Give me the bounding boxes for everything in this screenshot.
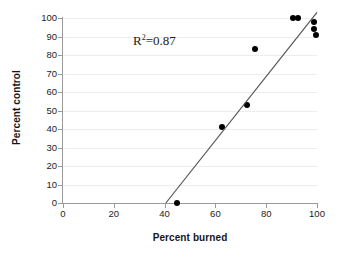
data-point [252, 46, 258, 52]
y-tick-label: 20 [13, 161, 57, 171]
gridline [63, 111, 317, 112]
x-tick-label: 40 [145, 209, 185, 219]
x-tick-mark [266, 203, 267, 208]
data-point [174, 200, 180, 206]
x-tick-mark [63, 203, 64, 208]
r-squared-value: =0.87 [146, 33, 176, 48]
x-tick-label: 80 [246, 209, 286, 219]
y-tick-label: 60 [13, 87, 57, 97]
x-tick-label: 20 [94, 209, 134, 219]
y-tick-label: 80 [13, 50, 57, 60]
scatter-chart: Percent control Percent burned R2=0.87 0… [0, 0, 342, 258]
x-axis-title: Percent burned [63, 232, 317, 243]
y-tick-mark [58, 111, 63, 112]
y-tick-label: 100 [13, 13, 57, 23]
gridline [63, 148, 317, 149]
y-tick-mark [58, 18, 63, 19]
gridline [63, 55, 317, 56]
y-tick-label: 70 [13, 69, 57, 79]
x-tick-label: 100 [297, 209, 337, 219]
y-tick-mark [58, 129, 63, 130]
x-axis-line [62, 203, 318, 204]
data-point [219, 124, 225, 130]
y-tick-mark [58, 55, 63, 56]
data-point [311, 19, 317, 25]
y-tick-mark [58, 74, 63, 75]
gridline [63, 18, 317, 19]
gridline [63, 166, 317, 167]
y-tick-label: 0 [13, 198, 57, 208]
y-tick-mark [58, 185, 63, 186]
data-point [244, 102, 250, 108]
y-tick-mark [58, 148, 63, 149]
plot-area [63, 18, 317, 203]
gridline [63, 129, 317, 130]
data-point [295, 15, 301, 21]
x-tick-mark [114, 203, 115, 208]
y-tick-mark [58, 166, 63, 167]
x-tick-label: 60 [195, 209, 235, 219]
y-tick-label: 50 [13, 106, 57, 116]
y-tick-label: 90 [13, 32, 57, 42]
data-point [313, 32, 319, 38]
y-tick-mark [58, 37, 63, 38]
x-tick-mark [317, 203, 318, 208]
x-tick-mark [165, 203, 166, 208]
gridline [63, 74, 317, 75]
gridline [63, 37, 317, 38]
gridline [63, 185, 317, 186]
r-squared-annotation: R2=0.87 [133, 33, 176, 49]
x-tick-label: 0 [43, 209, 83, 219]
y-tick-mark [58, 92, 63, 93]
r-squared-base: R [133, 33, 142, 48]
y-tick-label: 40 [13, 124, 57, 134]
y-tick-label: 30 [13, 143, 57, 153]
y-tick-label: 10 [13, 180, 57, 190]
gridline [63, 92, 317, 93]
x-tick-mark [215, 203, 216, 208]
